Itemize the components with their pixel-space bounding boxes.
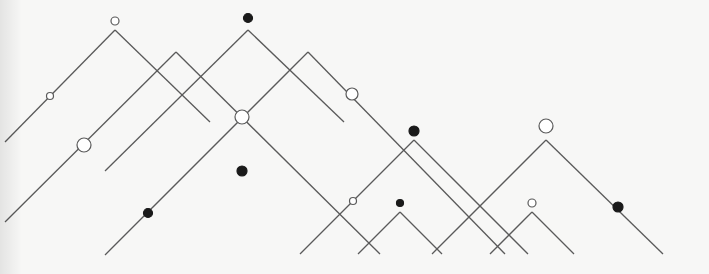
- solid-node-F-top: [397, 200, 404, 207]
- diagram-segments: [5, 30, 663, 255]
- hollow-node-D-right: [346, 88, 358, 100]
- segment-H-right: [532, 212, 574, 254]
- hollow-node-D-mid: [235, 110, 249, 124]
- segment-F-left: [358, 212, 400, 254]
- hollow-node-E-mid: [350, 198, 357, 205]
- solid-node-D-low: [144, 209, 153, 218]
- solid-node-free: [237, 166, 247, 176]
- line-diagram: [0, 0, 709, 274]
- segment-E-right: [414, 140, 528, 254]
- solid-node-G-mid: [613, 202, 623, 212]
- hollow-node-H-top: [528, 199, 536, 207]
- segment-A-left: [5, 30, 115, 142]
- segment-H-left: [490, 212, 532, 254]
- segment-C-right: [248, 30, 344, 122]
- hollow-node-G-top: [539, 119, 553, 133]
- hollow-node-A-top: [111, 17, 119, 25]
- segment-B-left: [5, 52, 176, 222]
- segment-A-right: [115, 30, 210, 122]
- solid-node-C-top: [244, 14, 253, 23]
- solid-node-E-top: [409, 126, 419, 136]
- hollow-node-A-mid: [47, 93, 54, 100]
- hollow-node-B-mid: [77, 138, 91, 152]
- diagram-nodes: [47, 14, 624, 218]
- segment-G-right: [546, 140, 663, 254]
- segment-E-left: [300, 140, 414, 254]
- segment-D-right: [308, 52, 505, 254]
- segment-F-right: [400, 212, 442, 254]
